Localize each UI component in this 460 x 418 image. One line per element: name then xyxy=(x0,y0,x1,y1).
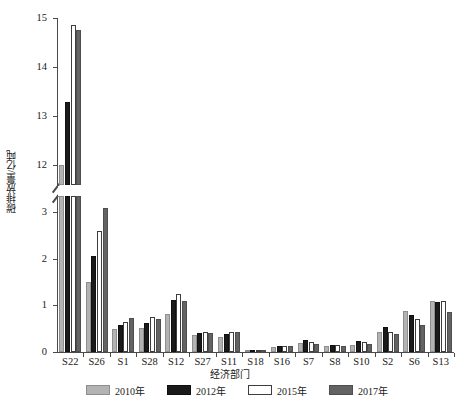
bar-S26-2012年 xyxy=(91,256,96,352)
y-tick-13 xyxy=(53,116,58,117)
bar-S7-2012年 xyxy=(303,340,308,352)
legend-item-2015年[interactable]: 2015年 xyxy=(248,383,307,398)
bar-S18-2017年 xyxy=(261,350,266,352)
bar-S13-2010年 xyxy=(430,301,435,352)
bar-S11-2017年 xyxy=(235,332,240,352)
y-tick-14 xyxy=(53,67,58,68)
bar-S11-2010年 xyxy=(218,337,223,352)
bar-S12-2017年 xyxy=(182,301,187,352)
bar-S8-2017年 xyxy=(341,346,346,352)
x-axis-label-S13: S13 xyxy=(421,356,460,367)
bar-S28-2012年 xyxy=(144,323,149,352)
bar-S2-2015年 xyxy=(388,332,393,352)
axis-break-band xyxy=(58,186,454,196)
bar-S27-2010年 xyxy=(192,335,197,352)
y-tick-label-12: 12 xyxy=(21,160,47,170)
y-tick-label-0: 0 xyxy=(21,347,47,357)
bar-S28-2015年 xyxy=(150,317,155,352)
bar-S1-2015年 xyxy=(123,322,128,352)
y-tick-1 xyxy=(53,305,58,306)
bar-S13-2015年 xyxy=(441,301,446,352)
bar-S6-2017年 xyxy=(420,325,425,352)
bar-S22-2015年 xyxy=(71,196,76,352)
bar-S26-2017年 xyxy=(103,208,108,352)
y-tick-12 xyxy=(53,165,58,166)
legend-item-2017年[interactable]: 2017年 xyxy=(329,383,388,398)
bar-S2-2010年 xyxy=(377,332,382,352)
legend-item-2012年[interactable]: 2012年 xyxy=(167,383,226,398)
bar-S1-2017年 xyxy=(129,318,134,352)
plot-area-upper xyxy=(57,18,454,190)
bar-top-S22-2015年 xyxy=(71,25,76,185)
bar-S18-2015年 xyxy=(256,350,261,352)
legend-label: 2017年 xyxy=(358,383,388,398)
bar-S6-2010年 xyxy=(403,311,408,352)
bar-S27-2012年 xyxy=(197,333,202,352)
y-tick-label-2: 2 xyxy=(21,254,47,264)
bar-S13-2012年 xyxy=(435,302,440,352)
bar-S18-2012年 xyxy=(250,350,255,352)
bar-chart: 碳排放量/亿吨 012312131415 S22S26S1S28S12S27S1… xyxy=(0,0,460,418)
legend-label: 2012年 xyxy=(196,383,226,398)
bar-S13-2017年 xyxy=(447,312,452,352)
bar-S26-2015年 xyxy=(97,231,102,352)
legend-swatch-icon-2015年 xyxy=(248,385,272,395)
legend-swatch-icon-2010年 xyxy=(86,385,110,395)
bar-S8-2015年 xyxy=(335,345,340,352)
y-tick-label-13: 13 xyxy=(21,111,47,121)
bar-S6-2015年 xyxy=(415,319,420,352)
bar-S22-2017年 xyxy=(76,196,81,352)
bar-S1-2010年 xyxy=(112,329,117,352)
bar-S16-2015年 xyxy=(282,346,287,352)
bar-S22-2010年 xyxy=(59,196,64,352)
bar-S6-2012年 xyxy=(409,315,414,352)
bar-top-S22-2010年 xyxy=(59,165,64,185)
bar-S26-2010年 xyxy=(86,282,91,352)
legend-item-2010年[interactable]: 2010年 xyxy=(86,383,145,398)
y-tick-label-14: 14 xyxy=(21,62,47,72)
bar-S27-2017年 xyxy=(208,333,213,352)
y-tick-0 xyxy=(53,352,58,353)
y-tick-15 xyxy=(53,18,58,19)
chart-legend: 2010年2012年2015年2017年 xyxy=(86,382,416,398)
y-tick-label-3: 3 xyxy=(21,207,47,217)
bar-S7-2015年 xyxy=(309,342,314,352)
bar-S8-2012年 xyxy=(330,345,335,352)
bar-S16-2010年 xyxy=(271,347,276,352)
y-tick-2 xyxy=(53,259,58,260)
bar-S8-2010年 xyxy=(324,346,329,352)
bar-S28-2010年 xyxy=(139,328,144,352)
x-axis-title: 经济部门 xyxy=(170,366,290,381)
bar-S28-2017年 xyxy=(156,319,161,352)
bar-S16-2017年 xyxy=(288,346,293,352)
bar-top-S22-2017年 xyxy=(76,30,81,185)
bar-S18-2010年 xyxy=(245,350,250,352)
y-tick-label-1: 1 xyxy=(21,300,47,310)
x-axis-line xyxy=(57,352,454,353)
legend-swatch-icon-2012年 xyxy=(167,385,191,395)
bar-S1-2012年 xyxy=(118,325,123,352)
y-tick-3 xyxy=(53,212,58,213)
bar-top-S22-2012年 xyxy=(65,102,70,186)
bar-S12-2015年 xyxy=(176,294,181,352)
bar-S7-2017年 xyxy=(314,344,319,352)
legend-swatch-icon-2017年 xyxy=(329,385,353,395)
bar-S11-2015年 xyxy=(229,332,234,352)
y-tick-label-15: 15 xyxy=(21,13,47,23)
bar-S22-2012年 xyxy=(65,196,70,352)
bar-S2-2017年 xyxy=(394,334,399,352)
bar-S27-2015年 xyxy=(203,332,208,352)
bar-S16-2012年 xyxy=(277,346,282,352)
legend-label: 2010年 xyxy=(115,383,145,398)
bar-S10-2015年 xyxy=(362,342,367,352)
bar-S12-2012年 xyxy=(171,300,176,352)
legend-label: 2015年 xyxy=(277,383,307,398)
bar-S10-2010年 xyxy=(350,345,355,352)
bar-S2-2012年 xyxy=(383,327,388,352)
bar-S10-2012年 xyxy=(356,341,361,352)
bar-S7-2010年 xyxy=(298,343,303,352)
bar-S12-2010年 xyxy=(165,314,170,352)
bar-S11-2012年 xyxy=(224,334,229,352)
bar-S10-2017年 xyxy=(367,344,372,352)
